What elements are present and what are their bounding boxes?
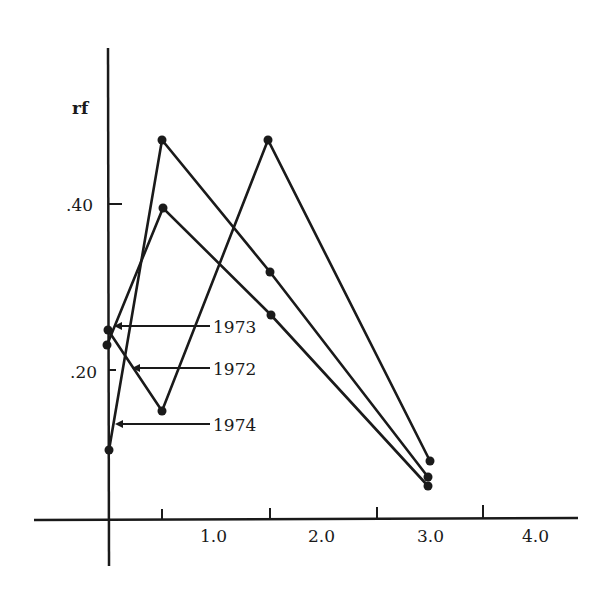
x-tick-label: 2.0: [308, 526, 335, 546]
svg-text:1974: 1974: [213, 415, 256, 435]
series-1972-line: [108, 140, 430, 461]
svg-text:1972: 1972: [213, 359, 256, 379]
y-axis: [108, 48, 109, 566]
chart-canvas: rf .40 .20 1.0 2.0 3.0 4.0 1973 1972 1: [0, 0, 604, 595]
x-tick-label: 4.0: [522, 526, 549, 546]
y-tick-label-40: .40: [66, 195, 93, 215]
x-axis: [34, 518, 578, 520]
svg-text:1973: 1973: [213, 317, 256, 337]
y-axis-label: rf: [72, 98, 90, 118]
series-1974-line: [109, 140, 428, 477]
x-tick-label: 3.0: [417, 526, 444, 546]
annotation-1974: 1974: [115, 415, 256, 435]
series-1973-line: [107, 208, 428, 486]
annotation-1973: 1973: [114, 317, 256, 337]
y-tick-label-20: .20: [70, 362, 97, 382]
annotation-1972: 1972: [132, 359, 256, 379]
x-tick-label: 1.0: [200, 526, 227, 546]
